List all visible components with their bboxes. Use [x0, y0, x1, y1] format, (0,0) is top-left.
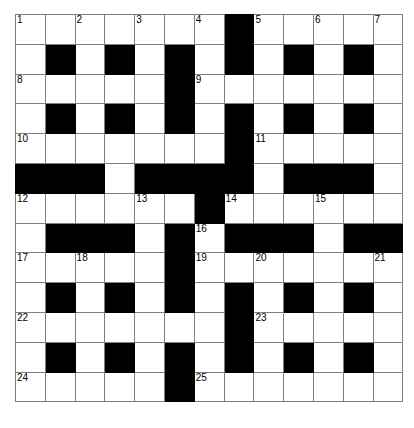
- crossword-cell[interactable]: [313, 223, 343, 253]
- crossword-cell[interactable]: [16, 104, 46, 134]
- crossword-cell[interactable]: [75, 134, 105, 164]
- crossword-cell[interactable]: [254, 104, 284, 134]
- crossword-cell[interactable]: [254, 44, 284, 74]
- crossword-cell[interactable]: [164, 193, 194, 223]
- crossword-cell[interactable]: [45, 372, 75, 402]
- crossword-cell[interactable]: 2: [75, 15, 105, 45]
- crossword-cell[interactable]: [313, 312, 343, 342]
- crossword-cell[interactable]: [135, 223, 165, 253]
- crossword-cell[interactable]: [373, 312, 403, 342]
- crossword-cell[interactable]: [105, 372, 135, 402]
- crossword-cell[interactable]: [284, 134, 314, 164]
- crossword-cell[interactable]: [75, 312, 105, 342]
- crossword-cell[interactable]: 14: [224, 193, 254, 223]
- crossword-cell[interactable]: [313, 253, 343, 283]
- crossword-cell[interactable]: [105, 134, 135, 164]
- crossword-cell[interactable]: [75, 342, 105, 372]
- crossword-cell[interactable]: [75, 372, 105, 402]
- crossword-cell[interactable]: [254, 193, 284, 223]
- crossword-cell[interactable]: [45, 15, 75, 45]
- crossword-cell[interactable]: [45, 312, 75, 342]
- crossword-cell[interactable]: [254, 372, 284, 402]
- crossword-cell[interactable]: 3: [135, 15, 165, 45]
- crossword-cell[interactable]: 1: [16, 15, 46, 45]
- crossword-cell[interactable]: [194, 134, 224, 164]
- crossword-cell[interactable]: [194, 312, 224, 342]
- crossword-cell[interactable]: 21: [373, 253, 403, 283]
- crossword-cell[interactable]: [254, 163, 284, 193]
- crossword-cell[interactable]: [343, 15, 373, 45]
- crossword-cell[interactable]: [373, 342, 403, 372]
- crossword-cell[interactable]: [343, 74, 373, 104]
- crossword-cell[interactable]: [164, 15, 194, 45]
- crossword-cell[interactable]: [284, 193, 314, 223]
- crossword-cell[interactable]: [313, 342, 343, 372]
- crossword-cell[interactable]: [194, 104, 224, 134]
- crossword-cell[interactable]: 18: [75, 253, 105, 283]
- crossword-cell[interactable]: [373, 44, 403, 74]
- crossword-cell[interactable]: [224, 372, 254, 402]
- crossword-cell[interactable]: [313, 134, 343, 164]
- crossword-cell[interactable]: [16, 342, 46, 372]
- crossword-cell[interactable]: 17: [16, 253, 46, 283]
- crossword-cell[interactable]: [194, 283, 224, 313]
- crossword-cell[interactable]: 23: [254, 312, 284, 342]
- crossword-cell[interactable]: [194, 342, 224, 372]
- crossword-cell[interactable]: [284, 15, 314, 45]
- crossword-cell[interactable]: [135, 104, 165, 134]
- crossword-cell[interactable]: [224, 74, 254, 104]
- crossword-cell[interactable]: [254, 283, 284, 313]
- crossword-cell[interactable]: 7: [373, 15, 403, 45]
- crossword-cell[interactable]: [164, 134, 194, 164]
- crossword-cell[interactable]: [75, 104, 105, 134]
- crossword-cell[interactable]: [284, 253, 314, 283]
- crossword-cell[interactable]: [254, 342, 284, 372]
- crossword-cell[interactable]: [135, 134, 165, 164]
- crossword-cell[interactable]: [75, 193, 105, 223]
- crossword-cell[interactable]: [164, 312, 194, 342]
- crossword-cell[interactable]: [16, 44, 46, 74]
- crossword-cell[interactable]: 16: [194, 223, 224, 253]
- crossword-cell[interactable]: [135, 283, 165, 313]
- crossword-cell[interactable]: [105, 193, 135, 223]
- crossword-cell[interactable]: [135, 74, 165, 104]
- crossword-cell[interactable]: [373, 193, 403, 223]
- crossword-cell[interactable]: [284, 372, 314, 402]
- crossword-cell[interactable]: 9: [194, 74, 224, 104]
- crossword-cell[interactable]: [194, 44, 224, 74]
- crossword-cell[interactable]: [313, 372, 343, 402]
- crossword-cell[interactable]: [373, 372, 403, 402]
- crossword-cell[interactable]: [45, 74, 75, 104]
- crossword-cell[interactable]: [105, 74, 135, 104]
- crossword-cell[interactable]: [45, 253, 75, 283]
- crossword-cell[interactable]: [313, 283, 343, 313]
- crossword-cell[interactable]: [224, 253, 254, 283]
- crossword-cell[interactable]: [343, 312, 373, 342]
- crossword-cell[interactable]: [135, 372, 165, 402]
- crossword-cell[interactable]: 8: [16, 74, 46, 104]
- crossword-cell[interactable]: [313, 104, 343, 134]
- crossword-cell[interactable]: 6: [313, 15, 343, 45]
- crossword-cell[interactable]: 24: [16, 372, 46, 402]
- crossword-cell[interactable]: [373, 283, 403, 313]
- crossword-cell[interactable]: [254, 74, 284, 104]
- crossword-cell[interactable]: 15: [313, 193, 343, 223]
- crossword-cell[interactable]: [45, 193, 75, 223]
- crossword-grid[interactable]: 1234567891011121314151617181920212223242…: [15, 14, 403, 402]
- crossword-cell[interactable]: [135, 44, 165, 74]
- crossword-cell[interactable]: [105, 253, 135, 283]
- crossword-cell[interactable]: [135, 312, 165, 342]
- crossword-cell[interactable]: 19: [194, 253, 224, 283]
- crossword-cell[interactable]: [343, 193, 373, 223]
- crossword-cell[interactable]: 13: [135, 193, 165, 223]
- crossword-cell[interactable]: [284, 74, 314, 104]
- crossword-cell[interactable]: [105, 15, 135, 45]
- crossword-cell[interactable]: 25: [194, 372, 224, 402]
- crossword-cell[interactable]: [75, 283, 105, 313]
- crossword-cell[interactable]: [105, 163, 135, 193]
- crossword-cell[interactable]: [75, 74, 105, 104]
- crossword-cell[interactable]: [313, 74, 343, 104]
- crossword-cell[interactable]: [284, 312, 314, 342]
- crossword-cell[interactable]: [373, 74, 403, 104]
- crossword-cell[interactable]: [135, 342, 165, 372]
